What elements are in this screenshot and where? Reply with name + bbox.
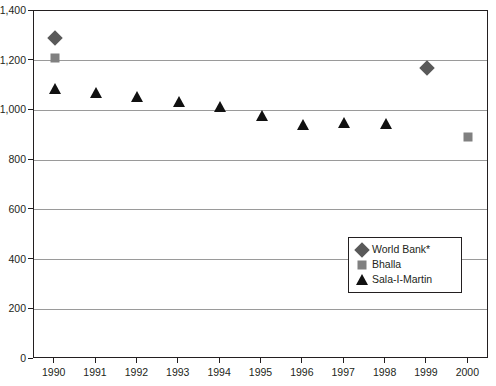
gridline xyxy=(34,160,487,161)
plot-area xyxy=(33,10,488,358)
data-point-triangle xyxy=(297,119,309,130)
y-tick-mark xyxy=(28,109,33,110)
legend-marker-glyph xyxy=(356,273,368,284)
data-point-triangle xyxy=(173,96,185,107)
y-tick-label: 1,400 xyxy=(0,5,26,16)
legend-item-label: Bhalla xyxy=(370,259,401,270)
data-point-square xyxy=(50,54,59,63)
chart-legend: World Bank*BhallaSala-I-Martin xyxy=(348,237,462,293)
x-tick-mark xyxy=(343,358,344,363)
data-point-triangle xyxy=(256,110,268,121)
data-point-triangle xyxy=(49,83,61,94)
y-tick-mark xyxy=(28,308,33,309)
x-tick-mark xyxy=(467,358,468,363)
gridline xyxy=(34,209,487,210)
y-tick-label: 1,000 xyxy=(0,104,26,115)
y-tick-mark xyxy=(28,258,33,259)
y-tick-label: 400 xyxy=(0,254,26,265)
legend-item: Sala-I-Martin xyxy=(354,272,456,287)
x-tick-mark xyxy=(425,358,426,363)
data-point-square xyxy=(464,132,473,141)
chart-container: 02004006008001,0001,2001,400 19901991199… xyxy=(0,0,496,386)
triangle-icon xyxy=(354,272,370,287)
data-point-triangle xyxy=(214,101,226,112)
square-icon xyxy=(354,257,370,272)
x-tick-mark xyxy=(384,358,385,363)
gridline xyxy=(34,309,487,310)
data-point-diamond xyxy=(419,60,435,76)
y-tick-label: 1,200 xyxy=(0,55,26,66)
diamond-icon xyxy=(354,242,370,257)
y-tick-mark xyxy=(28,208,33,209)
data-point-triangle xyxy=(90,86,102,97)
data-point-triangle xyxy=(338,117,350,128)
legend-item-label: World Bank* xyxy=(370,244,430,255)
gridline xyxy=(34,60,487,61)
y-tick-mark xyxy=(28,10,33,11)
data-point-triangle xyxy=(380,118,392,129)
x-tick-mark xyxy=(177,358,178,363)
legend-item-label: Sala-I-Martin xyxy=(370,274,432,285)
data-point-triangle xyxy=(131,91,143,102)
y-tick-label: 200 xyxy=(0,303,26,314)
data-point-diamond xyxy=(47,31,63,47)
legend-item: Bhalla xyxy=(354,257,456,272)
x-tick-mark xyxy=(301,358,302,363)
y-tick-label: 600 xyxy=(0,204,26,215)
x-tick-mark xyxy=(136,358,137,363)
y-tick-label: 800 xyxy=(0,154,26,165)
x-tick-mark xyxy=(95,358,96,363)
y-tick-mark xyxy=(28,358,33,359)
x-tick-mark xyxy=(260,358,261,363)
legend-marker-glyph xyxy=(358,260,367,269)
y-tick-label: 0 xyxy=(0,353,26,364)
x-tick-label: 2000 xyxy=(441,367,493,378)
y-tick-mark xyxy=(28,159,33,160)
legend-item: World Bank* xyxy=(354,242,456,257)
legend-marker-glyph xyxy=(354,242,370,258)
x-tick-mark xyxy=(53,358,54,363)
y-tick-mark xyxy=(28,59,33,60)
x-tick-mark xyxy=(219,358,220,363)
